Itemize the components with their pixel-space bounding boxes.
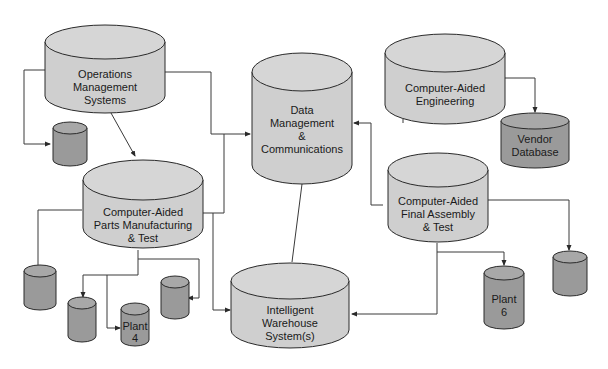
system-architecture-diagram: OperationsManagementSystems DataManageme…: [0, 0, 608, 369]
node-vendor-database[interactable]: VendorDatabase: [501, 113, 569, 168]
edge-data-management-warehouse: [292, 184, 302, 262]
edge-parts-mfg-warehouse: [213, 213, 230, 310]
edge-final-assembly-data-management: [354, 123, 383, 205]
node-parts-database-2[interactable]: [68, 297, 96, 342]
node-assembly-database[interactable]: [553, 251, 587, 296]
edge-cae-vendor-db: [502, 78, 535, 112]
node-parts-database-3[interactable]: [161, 276, 189, 319]
node-plant-4[interactable]: Plant4: [121, 303, 149, 346]
edge-parts-mfg-plant-4: [107, 275, 120, 328]
node-data-management-communications[interactable]: DataManagement&Communications: [252, 53, 352, 184]
edge-parts-mfg-data-management: [203, 134, 224, 213]
node-parts-database-1[interactable]: [24, 265, 56, 310]
edge-final-assembly-assembly-db: [488, 200, 569, 250]
node-operations-database[interactable]: [53, 122, 87, 166]
node-operations-management-systems[interactable]: OperationsManagementSystems: [45, 25, 165, 113]
edge-operations-data-management: [165, 72, 250, 134]
svg-text:VendorDatabase: VendorDatabase: [511, 133, 558, 158]
edge-parts-mfg-parts-db-1: [38, 210, 82, 265]
edge-operations-parts-mfg: [111, 113, 135, 156]
node-plant-6[interactable]: Plant6: [484, 266, 524, 329]
node-intelligent-warehouse-systems[interactable]: IntelligentWarehouseSystem(s): [231, 263, 349, 348]
edge-final-assembly-warehouse: [352, 252, 437, 314]
edge-parts-mfg-parts-db-2: [83, 250, 138, 297]
svg-text:IntelligentWarehouseSystem(s): IntelligentWarehouseSystem(s): [262, 304, 318, 342]
svg-text:Computer-AidedEngineering: Computer-AidedEngineering: [405, 82, 485, 107]
node-computer-aided-parts-manufacturing[interactable]: Computer-AidedParts Manufacturing& Test: [83, 160, 203, 248]
edge-final-assembly-plant-6: [437, 243, 504, 265]
node-computer-aided-engineering[interactable]: Computer-AidedEngineering: [385, 34, 505, 124]
node-computer-aided-final-assembly[interactable]: Computer-AidedFinal Assembly& Test: [388, 153, 488, 242]
